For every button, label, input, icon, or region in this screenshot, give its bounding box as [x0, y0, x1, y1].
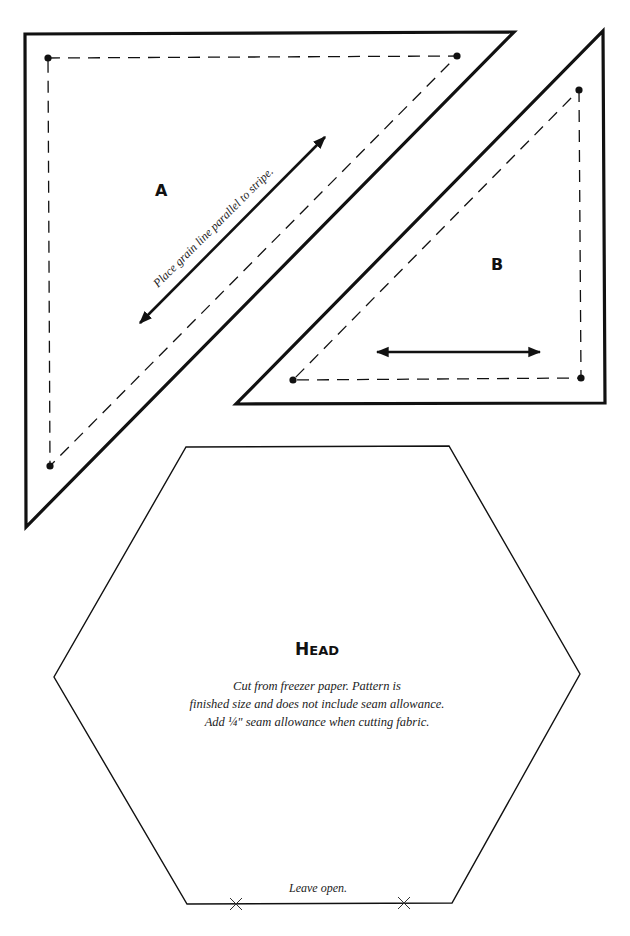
- piece-a: A Place grain line parallel to stripe.: [25, 32, 514, 527]
- seam-dot: [289, 376, 296, 383]
- head-instruction-line: Cut from freezer paper. Pattern is: [233, 679, 401, 693]
- piece-a-label: A: [155, 181, 168, 200]
- pattern-drawing: A Place grain line parallel to stripe. B…: [0, 0, 630, 936]
- seam-dot: [44, 54, 51, 61]
- seam-dot: [575, 86, 582, 93]
- piece-b-label: B: [491, 255, 503, 274]
- head-outline: [54, 446, 580, 904]
- grain-note: Place grain line parallel to stripe.: [150, 164, 277, 291]
- piece-b-cut-line: [236, 31, 605, 404]
- head-instruction-line: Add ¼" seam allowance when cutting fabri…: [204, 715, 430, 729]
- pattern-page: A Place grain line parallel to stripe. B…: [0, 0, 630, 936]
- piece-b: B: [236, 31, 605, 404]
- piece-a-cut-line: [25, 32, 514, 527]
- grain-arrow-icon: [140, 137, 325, 323]
- seam-dot: [453, 52, 460, 59]
- head-piece: HEAD Cut from freezer paper. Pattern is …: [54, 446, 580, 910]
- head-instruction-line: finished size and does not include seam …: [190, 697, 445, 711]
- piece-b-seam-line: [293, 90, 581, 380]
- opening-note: Leave open.: [288, 881, 347, 895]
- seam-dot: [46, 462, 53, 469]
- seam-dot: [577, 374, 584, 381]
- head-title: HEAD: [295, 639, 339, 659]
